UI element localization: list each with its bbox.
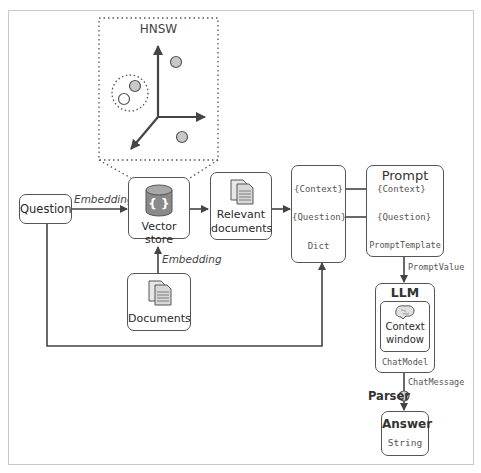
dict-question: {Question} [292,212,345,222]
context-window-line2: window [381,334,429,345]
chatmessage-label: ChatMessage [408,377,464,387]
node-vector-store[interactable]: { } Vector store [128,177,190,239]
cluster-icon [112,75,148,111]
node-relevant-documents[interactable]: Relevant documents [210,172,272,240]
prompt-type: PromptTemplate [367,240,443,250]
promptvalue-label: PromptValue [408,262,464,272]
axis-z-icon [131,117,158,149]
prompt-question: {Question} [377,212,431,222]
documents-icon [147,279,173,307]
llm-title: LLM [376,285,434,300]
answer-type: String [382,437,428,448]
relevant-documents-line1: Relevant [211,208,271,221]
answer-title: Answer [382,417,428,431]
node-question[interactable]: Question [19,194,72,224]
relevant-documents-line2: documents [211,222,271,235]
svg-text:{ }: { } [148,197,169,211]
llm-type: ChatModel [376,357,434,367]
node-dict[interactable]: {Context} {Question} Dict [291,165,346,263]
prompt-context: {Context} [377,184,426,194]
prompt-title: Prompt [367,168,443,183]
context-window-box: Context window [380,301,430,352]
dict-context: {Context} [292,184,345,194]
node-answer[interactable]: Answer String [381,411,429,456]
node-prompt[interactable]: Prompt {Context} {Question} PromptTempla… [366,165,444,257]
node-documents[interactable]: Documents [127,273,191,331]
documents-icon [229,178,255,206]
hnsw-title: HNSW [99,22,218,36]
documents-label: Documents [128,312,190,325]
context-window-line1: Context [381,321,429,332]
database-icon: { } [144,184,174,218]
parser-label: Parser [368,389,410,403]
dict-type: Dict [292,241,345,251]
hnsw-callout [99,18,218,178]
vector-store-label: Vector store [129,220,189,246]
node-llm[interactable]: LLM Context window ChatModel [375,283,435,373]
embedding-label-top: Embedding [74,193,134,205]
question-label: Question [20,202,71,216]
embedding-label-bottom: Embedding [162,253,222,265]
brain-icon [394,304,416,320]
